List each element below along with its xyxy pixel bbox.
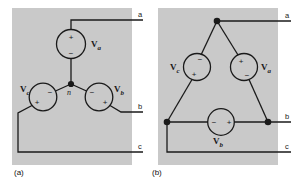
panel-a-terminal-label-b: b <box>138 102 142 111</box>
panel-a-neutral-label: n <box>67 88 71 97</box>
panel-a-caption: (a) <box>14 168 24 177</box>
panel-b-vb-minus-sign: − <box>212 118 217 127</box>
panel-a-vc-minus-sign: − <box>48 88 53 97</box>
panel-b-bottomright-node <box>265 119 272 126</box>
panel-b-vc-minus-sign: − <box>198 55 203 64</box>
panel-b-va-plus-sign: + <box>239 57 244 66</box>
panel-b-vb-plus-sign: + <box>227 118 232 127</box>
panel-b-vc-plus-sign: + <box>192 70 197 79</box>
panel-a-vb-plus-sign: + <box>103 98 108 107</box>
panel-a-va-plus-sign: + <box>69 33 74 42</box>
figure-canvas: + − − + − + Va Vc Vb n a b c <box>0 0 297 189</box>
panel-b-label-va-sub: a <box>268 67 272 75</box>
panel-b: − + + − − + Vc Va Vb a b c <box>158 8 291 165</box>
panel-a-terminal-label-a: a <box>138 10 143 19</box>
panel-a-label-vc-sub: c <box>27 89 30 97</box>
panel-b-label-vc-sub: c <box>177 67 180 75</box>
panel-b-va-minus-sign: − <box>245 71 250 80</box>
panel-b-label-vb-sub: b <box>220 141 224 149</box>
panel-b-caption: (b) <box>152 168 162 177</box>
panel-a-label-va-sub: a <box>98 44 102 52</box>
panel-b-terminal-label-c: c <box>285 142 289 151</box>
panel-a: + − − + − + Va Vc Vb n a b c <box>12 8 143 165</box>
panel-a-terminal-label-c: c <box>138 142 142 151</box>
figure-three-phase-source-connections: + − − + − + Va Vc Vb n a b c <box>0 0 297 189</box>
panel-a-vb-minus-sign: − <box>90 88 95 97</box>
panel-a-va-minus-sign: − <box>69 49 74 58</box>
panel-b-terminal-label-a: a <box>285 11 290 20</box>
panel-a-label-vb-sub: b <box>121 89 125 97</box>
panel-b-terminal-label-b: b <box>285 112 289 121</box>
panel-a-vc-plus-sign: + <box>35 98 40 107</box>
